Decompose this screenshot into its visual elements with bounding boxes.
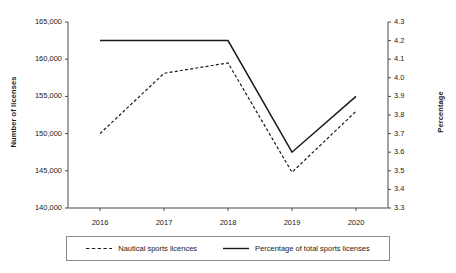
legend-item-nautical-sports-licences: Nautical sports licences [86,244,197,253]
legend-solid-line-icon [223,244,249,253]
tick-marks [65,22,391,211]
legend-item-percentage-of-total-sports-licenses: Percentage of total sports licenses [223,244,370,253]
legend-dashed-line-icon [86,244,112,253]
series-line [100,41,356,153]
legend-label-percentage-of-total-sports-licenses: Percentage of total sports licenses [255,245,370,253]
axis-lines [68,22,388,208]
series-line [100,63,356,172]
chart-container: Number of licenses Percentage 140,000145… [0,0,456,273]
legend-label-nautical-sports-licences: Nautical sports licences [118,245,197,253]
plot-area [0,0,456,273]
chart-legend: Nautical sports licences Percentage of t… [66,236,390,261]
series-lines [100,41,356,173]
